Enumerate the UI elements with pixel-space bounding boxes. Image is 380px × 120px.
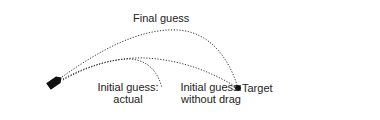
target-text: Target (242, 82, 273, 94)
cannon-icon (46, 74, 64, 90)
final-guess-trajectory (62, 30, 238, 88)
initial-guess-actual-line1: Initial guess: (95, 81, 161, 93)
target-label: Target (242, 82, 273, 94)
initial-guess-nodrag-line1: Initial guess: (176, 81, 246, 93)
initial-guess-nodrag-line2: without drag (176, 93, 246, 105)
initial-guess-actual-label: Initial guess: actual (95, 81, 161, 105)
initial-guess-without-drag-label: Initial guess: without drag (176, 81, 246, 105)
final-guess-text: Final guess (133, 12, 189, 24)
initial-guess-actual-line2: actual (95, 93, 161, 105)
final-guess-label: Final guess (133, 12, 189, 24)
